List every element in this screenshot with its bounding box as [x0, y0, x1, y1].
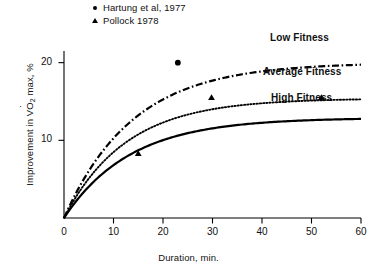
y-axis-ticks — [59, 63, 65, 141]
y-axis-title-subscript: 2 — [29, 98, 36, 102]
curve-label-low-fitness: Low Fitness — [270, 32, 329, 43]
x-tick-label-50: 50 — [301, 226, 323, 237]
x-tick-label-10: 10 — [103, 226, 125, 237]
figure-vo2max-improvement: Hartung et al, 1977 Pollock 1978 1020 01… — [0, 0, 377, 279]
curve-high-fitness — [64, 119, 361, 218]
x-tick-label-0: 0 — [53, 226, 75, 237]
curve-average-fitness — [64, 99, 361, 218]
curve-group — [64, 65, 361, 218]
x-tick-label-20: 20 — [152, 226, 174, 237]
x-tick-label-60: 60 — [350, 226, 372, 237]
scatter-point-circle — [175, 60, 181, 66]
curve-low-fitness — [64, 65, 361, 218]
curve-label-high-fitness: High Fitness — [271, 92, 332, 103]
x-tick-label-40: 40 — [251, 226, 273, 237]
y-axis-title-prefix: Improvement in V — [24, 110, 35, 186]
scatter-point-triangle — [208, 94, 215, 100]
y-axis-title-suffix: max, % — [24, 63, 35, 98]
x-tick-label-30: 30 — [202, 226, 224, 237]
x-axis-ticks — [114, 218, 362, 224]
x-axis-title: Duration, min. — [0, 252, 377, 263]
v-dot-accent-icon: O — [24, 102, 35, 110]
y-axis-title: Improvement in VO2 max, % — [24, 45, 35, 205]
curve-label-average-fitness: Average Fitness — [263, 66, 341, 77]
